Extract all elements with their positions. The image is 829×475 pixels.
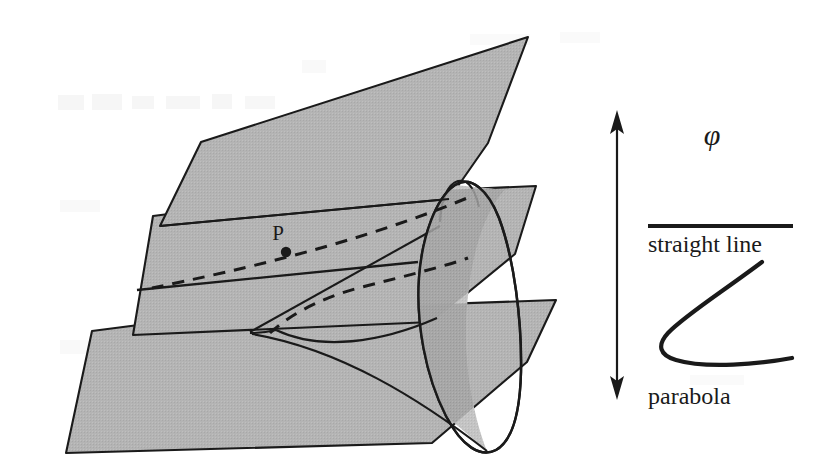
figure-svg: P φ straight line parabola	[0, 0, 829, 475]
point-P-label: P	[272, 221, 284, 245]
point-P-marker	[281, 247, 291, 257]
parabola-label: parabola	[648, 383, 731, 409]
double-headed-arrow-icon	[610, 110, 624, 400]
straight-line-label: straight line	[648, 231, 762, 257]
parabola-curve	[661, 262, 792, 365]
right-panel-legend: φ straight line parabola	[610, 110, 793, 409]
phi-symbol: φ	[704, 118, 721, 151]
figure-root: P φ straight line parabola	[0, 0, 829, 475]
